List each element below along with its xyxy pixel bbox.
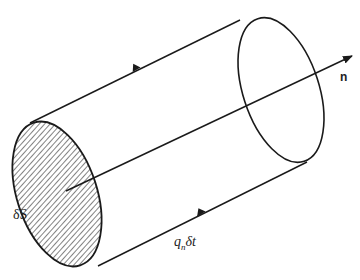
normal-label: n	[340, 70, 347, 84]
top-arrow-icon	[130, 62, 141, 72]
surface-element-dS	[0, 110, 118, 277]
bottom-generator-line	[98, 162, 307, 266]
length-label-dt: δt	[186, 234, 196, 249]
top-generator-line	[30, 20, 240, 123]
length-label: qnδt	[174, 234, 196, 252]
length-label-q: q	[174, 234, 181, 249]
surface-element-label: δS	[13, 207, 27, 223]
normal-vector-n	[66, 56, 352, 191]
